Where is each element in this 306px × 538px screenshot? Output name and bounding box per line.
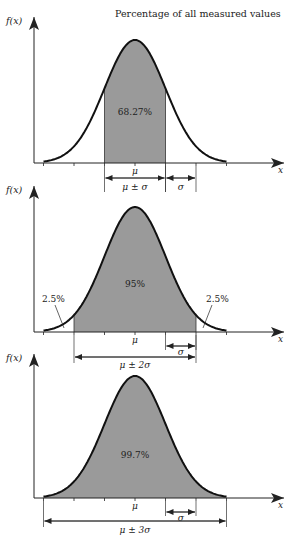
- shaded-area: [74, 207, 196, 332]
- area-percent-label: 68.27%: [118, 107, 153, 117]
- mean-label: μ: [132, 335, 138, 345]
- sigma-label: σ: [178, 513, 185, 523]
- range-label: μ ± 3σ: [120, 525, 152, 535]
- normal-distribution-figure: f(x)xμ68.27%σμ ± σf(x)xμ95%σμ ± 2σ2.5%2.…: [0, 0, 306, 538]
- y-axis-label: f(x): [5, 15, 23, 26]
- y-axis-label: f(x): [5, 184, 23, 195]
- sigma-label: σ: [178, 347, 185, 357]
- left-tail-label: 2.5%: [42, 294, 65, 304]
- panel-3: f(x)xμ99.7%σμ ± 3σ: [5, 352, 284, 535]
- range-label: μ ± σ: [122, 182, 148, 192]
- panel-2: f(x)xμ95%σμ ± 2σ2.5%2.5%: [5, 184, 284, 370]
- y-axis-label: f(x): [5, 352, 23, 363]
- x-axis-label: x: [278, 500, 283, 510]
- range-label: μ ± 2σ: [120, 360, 152, 370]
- shaded-area: [105, 40, 166, 163]
- panel-1: f(x)xμ68.27%σμ ± σ: [5, 15, 284, 192]
- mean-label: μ: [132, 166, 138, 176]
- mean-label: μ: [132, 501, 138, 511]
- figure-title: Percentage of all measured values: [115, 8, 281, 19]
- area-percent-label: 99.7%: [121, 450, 150, 460]
- x-axis-label: x: [278, 334, 283, 344]
- sigma-label: σ: [178, 182, 185, 192]
- shaded-area: [44, 376, 227, 498]
- area-percent-label: 95%: [125, 279, 145, 289]
- x-axis-label: x: [278, 165, 283, 175]
- right-tail-label: 2.5%: [206, 294, 229, 304]
